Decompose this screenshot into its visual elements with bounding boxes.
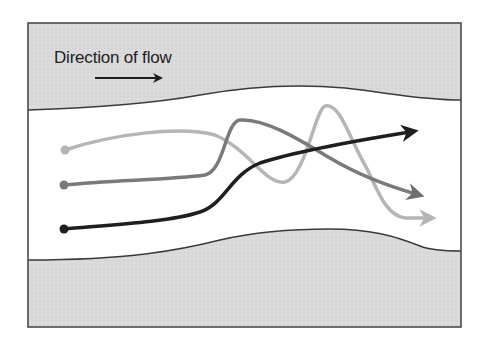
light-gray-path-start xyxy=(61,146,70,155)
black-path-start xyxy=(60,225,69,234)
medium-gray-path-start xyxy=(60,181,69,190)
direction-of-flow-label: Direction of flow xyxy=(54,48,172,68)
